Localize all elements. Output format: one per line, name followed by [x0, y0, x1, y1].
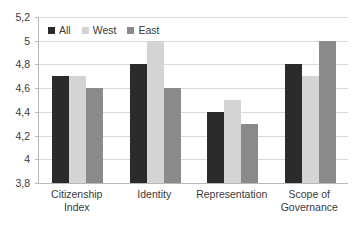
bar-all: [130, 64, 147, 183]
plot-area: [38, 17, 348, 183]
bar-group: [272, 17, 350, 183]
legend-item-west: West: [82, 25, 117, 36]
x-tick-label: Identity: [116, 188, 194, 201]
x-tick-label: Scope ofGovernance: [271, 188, 349, 214]
legend-swatch-icon: [82, 27, 89, 34]
x-tick-label: Representation: [193, 188, 271, 201]
bar-all: [207, 112, 224, 183]
y-tick-mark: [35, 183, 39, 184]
bar-all: [285, 64, 302, 183]
legend-label: East: [138, 25, 159, 36]
bar-west: [302, 76, 319, 183]
x-tick-label-line: Citizenship: [38, 188, 116, 201]
y-tick-label: 4,8: [0, 59, 30, 70]
legend-swatch-icon: [48, 27, 55, 34]
bars-layer: [39, 17, 348, 183]
legend-swatch-icon: [127, 27, 134, 34]
gridline-3-8: [39, 183, 348, 184]
bar-east: [319, 41, 336, 183]
bar-group: [39, 17, 117, 183]
bar-group: [194, 17, 272, 183]
bar-west: [69, 76, 86, 183]
x-tick-label-line: Representation: [193, 188, 271, 201]
x-axis: CitizenshipIndexIdentityRepresentationSc…: [38, 188, 348, 228]
y-tick-label: 5: [0, 35, 30, 46]
bar-west: [147, 41, 164, 183]
y-tick-label: 4: [0, 154, 30, 165]
legend-item-east: East: [127, 25, 159, 36]
x-tick-label-line: Scope of: [271, 188, 349, 201]
y-tick-label: 5,2: [0, 12, 30, 23]
y-tick-label: 3,8: [0, 178, 30, 189]
bar-all: [52, 76, 69, 183]
x-tick-label-line: Identity: [116, 188, 194, 201]
bar-east: [241, 124, 258, 183]
y-tick-label: 4,4: [0, 107, 30, 118]
bar-west: [224, 100, 241, 183]
bar-group: [117, 17, 195, 183]
x-tick-label-line: Index: [38, 201, 116, 214]
bar-chart: 5,254,84,64,44,243,8 CitizenshipIndexIde…: [0, 0, 361, 230]
y-tick-label: 4,6: [0, 83, 30, 94]
x-tick-label-line: Governance: [271, 201, 349, 214]
bar-east: [164, 88, 181, 183]
legend-item-all: All: [48, 25, 71, 36]
y-tick-label: 4,2: [0, 130, 30, 141]
chart-legend: AllWestEast: [48, 25, 159, 36]
bar-east: [86, 88, 103, 183]
legend-label: All: [59, 25, 71, 36]
legend-label: West: [93, 25, 117, 36]
x-tick-label: CitizenshipIndex: [38, 188, 116, 214]
y-axis: 5,254,84,64,44,243,8: [0, 0, 30, 230]
